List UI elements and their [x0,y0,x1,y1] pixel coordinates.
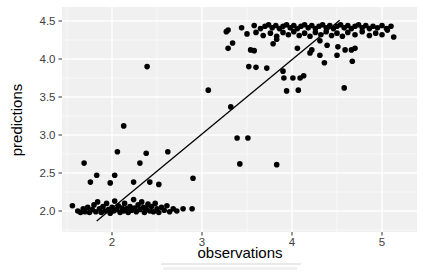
data-point [268,30,274,36]
data-point [329,33,335,39]
data-point [131,179,137,185]
data-point [341,85,347,91]
y-tick-label: 4.5 [40,15,56,27]
data-point [244,31,250,37]
data-point [302,30,308,36]
data-point [147,179,153,185]
data-point [334,30,340,36]
data-point [131,197,137,203]
data-point [180,206,186,212]
data-point [270,41,276,47]
y-tick-label: 3.0 [40,129,56,141]
data-point [104,201,110,207]
data-point [290,75,296,81]
data-point [156,210,162,216]
x-axis-title: observations [140,245,340,261]
data-point [309,47,315,53]
data-point [295,46,301,52]
data-point [352,32,358,38]
data-point [139,199,145,205]
data-point [307,33,313,39]
data-point [251,23,257,29]
data-point [225,27,231,33]
data-point [156,182,162,188]
data-point [165,149,171,155]
chart-canvas: 23452.02.53.03.54.04.5 [0,0,423,274]
data-point [324,43,330,49]
data-point [260,33,266,39]
data-point [228,104,234,110]
y-tick-label: 3.5 [40,91,56,103]
data-point [296,33,302,39]
data-point [284,88,290,94]
data-point [253,30,259,36]
data-point [280,68,286,74]
data-point [296,87,302,93]
data-point [342,47,348,53]
data-point [264,65,270,71]
data-point [335,44,341,50]
data-point [174,208,180,214]
data-point [239,25,245,31]
data-point [144,64,150,70]
data-point [334,52,340,58]
data-point [352,46,358,52]
footer-artifact [163,267,297,270]
data-point [152,201,158,207]
data-point [350,58,356,64]
data-point [112,172,118,178]
footer-artifact [161,263,301,265]
data-point [81,160,87,166]
data-point [189,206,195,212]
data-point [107,180,113,186]
data-point [245,135,251,141]
data-point [230,40,236,46]
data-point [234,135,240,141]
scatter-plot-figure: 23452.02.53.03.54.04.5 predictions obser… [0,0,423,274]
y-axis-title: predictions [9,70,25,170]
x-tick-label: 5 [379,236,385,248]
data-point [297,75,303,81]
data-point [281,75,287,81]
data-point [318,32,324,38]
data-point [143,150,149,156]
data-point [206,87,212,93]
data-point [391,34,397,40]
data-point [274,162,280,168]
plot-panel [62,7,417,232]
data-point [274,33,280,39]
data-point [225,46,231,52]
data-point [237,161,243,167]
data-point [190,176,196,182]
data-point [322,60,328,66]
data-point [112,198,118,204]
data-point [121,123,127,129]
data-point [379,32,385,38]
data-point [122,201,128,207]
y-tick-label: 2.0 [40,205,56,217]
data-point [317,38,323,44]
x-tick-label: 2 [109,236,115,248]
y-tick-label: 2.5 [40,167,56,179]
data-point [95,199,101,205]
data-point [137,160,143,166]
data-point [115,149,121,155]
data-point [388,24,394,30]
data-point [373,30,379,36]
data-point [251,48,257,54]
data-point [94,172,100,178]
data-point [246,64,252,70]
data-point [286,32,292,38]
data-point [164,203,170,209]
data-point [317,52,323,58]
data-point [253,65,259,71]
data-point [340,33,346,39]
data-point [88,179,94,185]
y-tick-label: 4.0 [40,53,56,65]
data-point [70,203,76,209]
data-point [367,33,373,39]
